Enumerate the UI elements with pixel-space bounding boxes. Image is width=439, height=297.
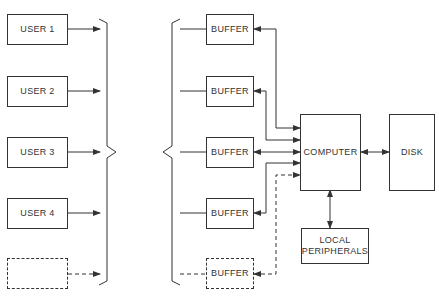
local-peripherals-box: LOCAL PERIPHERALS <box>301 228 369 264</box>
buffer-2-label: BUFFER <box>211 86 249 97</box>
user-3-label: USER 3 <box>20 147 54 158</box>
buffer-optional-label: BUFFER <box>211 268 249 279</box>
buffer-1-box: BUFFER <box>206 14 254 45</box>
user-2-label: USER 2 <box>20 86 54 97</box>
buffer-3-label: BUFFER <box>211 147 249 158</box>
left-brace <box>99 19 116 285</box>
user-4-label: USER 4 <box>20 208 54 219</box>
computer-label: COMPUTER <box>304 147 358 158</box>
buffer-2-box: BUFFER <box>206 76 254 107</box>
buffer-optional-box: BUFFER <box>206 258 254 289</box>
disk-box: DISK <box>389 114 435 191</box>
user-2-box: USER 2 <box>7 76 68 107</box>
buffer-4-label: BUFFER <box>211 208 249 219</box>
buffer5-link <box>254 175 300 274</box>
buffer-4-box: BUFFER <box>206 198 254 229</box>
user-optional-box <box>7 258 68 289</box>
buffer-3-box: BUFFER <box>206 137 254 168</box>
buffer-1-label: BUFFER <box>211 24 249 35</box>
user-1-label: USER 1 <box>20 24 54 35</box>
user-1-box: USER 1 <box>7 14 68 45</box>
buffer1-link <box>254 29 300 128</box>
local-peripherals-label: LOCAL PERIPHERALS <box>302 235 368 257</box>
buffer2-link <box>254 91 300 140</box>
computer-box: COMPUTER <box>300 114 361 191</box>
disk-label: DISK <box>401 147 423 158</box>
right-brace <box>163 19 180 285</box>
user-4-box: USER 4 <box>7 198 68 229</box>
user-3-box: USER 3 <box>7 137 68 168</box>
buffer4-link <box>254 163 300 213</box>
